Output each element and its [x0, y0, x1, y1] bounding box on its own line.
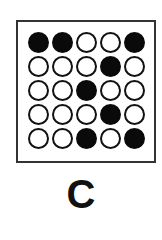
- empty-circle: [52, 56, 73, 77]
- empty-circle: [28, 80, 49, 101]
- empty-circle: [52, 80, 73, 101]
- filled-circle: [124, 32, 145, 53]
- empty-circle: [28, 56, 49, 77]
- empty-circle: [76, 56, 97, 77]
- empty-circle: [28, 128, 49, 149]
- filled-circle: [124, 128, 145, 149]
- filled-circle: [76, 128, 97, 149]
- empty-circle: [28, 104, 49, 125]
- filled-circle: [76, 80, 97, 101]
- filled-circle: [100, 104, 121, 125]
- circle-grid: [28, 32, 145, 149]
- empty-circle: [76, 104, 97, 125]
- empty-circle: [52, 128, 73, 149]
- empty-circle: [52, 104, 73, 125]
- empty-circle: [124, 104, 145, 125]
- empty-circle: [100, 32, 121, 53]
- filled-circle: [100, 56, 121, 77]
- filled-circle: [28, 32, 49, 53]
- grid-panel: [16, 20, 156, 163]
- empty-circle: [100, 80, 121, 101]
- figure-label: C: [0, 172, 162, 216]
- empty-circle: [100, 128, 121, 149]
- filled-circle: [52, 32, 73, 53]
- empty-circle: [124, 80, 145, 101]
- empty-circle: [76, 32, 97, 53]
- empty-circle: [124, 56, 145, 77]
